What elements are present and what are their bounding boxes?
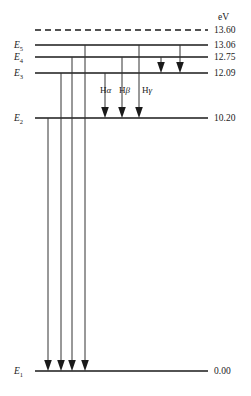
level-label-E4: E4 — [13, 52, 24, 64]
energy-value-E1: 0.00 — [214, 366, 231, 376]
energy-value-E4: 12.75 — [214, 52, 236, 62]
transition-lyman-4-1 — [68, 57, 76, 371]
level-label-E2: E2 — [13, 113, 23, 125]
transition-balmer-3-2 — [101, 73, 109, 118]
diagram-canvas: eV E5 E4 E3 E2 E1 13.60 13.06 12.75 12.0… — [0, 0, 251, 396]
energy-value-E2: 10.20 — [214, 113, 236, 123]
series-label-h-beta: Hβ — [119, 85, 131, 95]
energy-value-E5: 13.06 — [214, 40, 236, 50]
level-label-E1: E1 — [13, 366, 23, 378]
energy-level-diagram: eV E5 E4 E3 E2 E1 13.60 13.06 12.75 12.0… — [0, 0, 251, 396]
series-label-h-alpha: Hα — [100, 85, 112, 95]
transition-balmer-5-2 — [135, 45, 143, 118]
transition-paschen-5-3 — [176, 45, 184, 73]
level-label-E5: E5 — [13, 40, 23, 52]
transition-lyman-5-1 — [81, 45, 89, 371]
transition-lyman-2-1 — [44, 118, 52, 371]
level-label-E3: E3 — [13, 68, 23, 80]
series-label-h-gamma: Hγ — [142, 85, 153, 95]
transition-paschen-4-3 — [157, 57, 165, 73]
energy-value-E3: 12.09 — [214, 68, 236, 78]
unit-header: eV — [218, 12, 229, 22]
energy-value-ionization: 13.60 — [214, 25, 236, 35]
